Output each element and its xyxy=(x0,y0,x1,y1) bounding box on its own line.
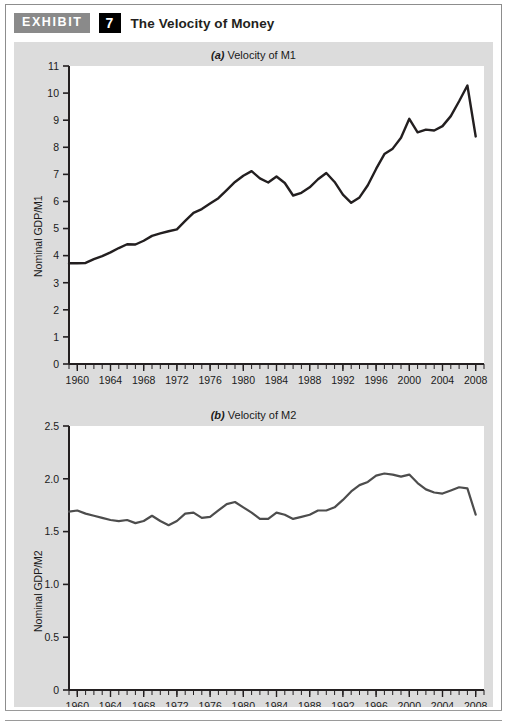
y-tick-label: 7 xyxy=(53,168,59,180)
page-footer-rule xyxy=(5,720,502,721)
x-tick-label: 2000 xyxy=(398,700,422,707)
y-tick-label: 4 xyxy=(53,249,59,261)
x-tick-label: 1996 xyxy=(364,374,388,386)
x-tick-label: 2000 xyxy=(398,374,422,386)
exhibit-header: EXHIBIT 7 The Velocity of Money xyxy=(14,12,274,34)
y-tick-label: 0.5 xyxy=(44,631,59,643)
page-border-bottom xyxy=(5,710,502,711)
exhibit-number-badge: 7 xyxy=(99,13,121,33)
y-tick-label: 8 xyxy=(53,141,59,153)
chart-a-canvas: 0123456789101119601964196819721976198019… xyxy=(14,42,493,387)
x-tick-label: 1968 xyxy=(132,700,156,707)
y-tick-label: 1.0 xyxy=(44,578,59,590)
x-tick-label: 2004 xyxy=(431,374,455,386)
x-tick-label: 1996 xyxy=(364,700,388,707)
x-tick-label: 1992 xyxy=(331,700,355,707)
page-title: The Velocity of Money xyxy=(131,16,275,31)
charts-panel: (a) Velocity of M1 Nominal GDP/M1 012345… xyxy=(14,42,493,707)
y-tick-label: 0 xyxy=(53,684,59,696)
y-tick-label: 0 xyxy=(53,358,59,370)
chart-b-canvas: 00.51.01.52.02.5196019641968197219761980… xyxy=(14,387,493,707)
x-tick-label: 1988 xyxy=(298,700,322,707)
y-tick-label: 6 xyxy=(53,195,59,207)
x-tick-label: 1976 xyxy=(198,700,222,707)
exhibit-page: EXHIBIT 7 The Velocity of Money (a) Velo… xyxy=(0,0,507,725)
y-tick-label: 5 xyxy=(53,222,59,234)
data-line-velocity-of-m1 xyxy=(69,86,476,264)
x-tick-label: 1960 xyxy=(66,374,90,386)
y-tick-label: 1.5 xyxy=(44,525,59,537)
x-tick-label: 1984 xyxy=(265,700,289,707)
data-line-velocity-of-m2 xyxy=(69,474,476,526)
chart-velocity-of-m2: (b) Velocity of M2 Nominal GDP/M2 00.51.… xyxy=(14,387,493,707)
exhibit-badge: EXHIBIT xyxy=(14,13,90,33)
page-border-top xyxy=(5,4,502,5)
y-tick-label: 2 xyxy=(53,304,59,316)
x-tick-label: 1964 xyxy=(99,374,123,386)
chart-velocity-of-m1: (a) Velocity of M1 Nominal GDP/M1 012345… xyxy=(14,42,493,387)
y-tick-label: 9 xyxy=(53,114,59,126)
y-tick-label: 2.5 xyxy=(44,420,59,432)
page-border-left xyxy=(5,4,6,710)
y-tick-label: 3 xyxy=(53,277,59,289)
x-tick-label: 1976 xyxy=(198,374,222,386)
x-tick-label: 1992 xyxy=(331,374,355,386)
x-tick-label: 1972 xyxy=(165,700,189,707)
x-tick-label: 1980 xyxy=(232,374,256,386)
x-tick-label: 1968 xyxy=(132,374,156,386)
y-tick-label: 1 xyxy=(53,331,59,343)
x-tick-label: 1964 xyxy=(99,700,123,707)
x-tick-label: 1988 xyxy=(298,374,322,386)
x-tick-label: 1960 xyxy=(66,700,90,707)
x-tick-label: 2004 xyxy=(431,700,455,707)
page-border-right xyxy=(501,4,502,710)
y-tick-label: 2.0 xyxy=(44,473,59,485)
x-tick-label: 1984 xyxy=(265,374,289,386)
x-tick-label: 1972 xyxy=(165,374,189,386)
x-tick-label: 2008 xyxy=(464,700,488,707)
y-tick-label: 11 xyxy=(48,60,59,72)
y-tick-label: 10 xyxy=(47,87,59,99)
x-tick-label: 2008 xyxy=(464,374,488,386)
x-tick-label: 1980 xyxy=(232,700,256,707)
